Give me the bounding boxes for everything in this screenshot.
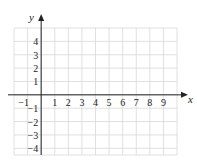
x-tick-label: 9	[161, 97, 166, 108]
x-tick-label: 5	[107, 97, 112, 108]
x-tick-label: 2	[66, 97, 71, 108]
x-tick-label: 8	[147, 97, 152, 108]
y-tick-label: −3	[28, 130, 39, 141]
x-tick-label: 4	[93, 97, 98, 108]
y-axis-arrow-icon	[38, 14, 44, 21]
y-tick-label: 4	[33, 36, 38, 47]
x-tick-label: 7	[134, 97, 139, 108]
y-tick-label: −2	[28, 117, 39, 128]
x-axis-label: x	[187, 93, 193, 105]
y-tick-label: −1	[28, 103, 39, 114]
y-tick-label: 1	[33, 76, 38, 87]
y-axis-label: y	[28, 11, 34, 23]
x-tick-label: 3	[79, 97, 84, 108]
y-tick-label: 3	[33, 50, 38, 61]
coordinate-plane: −11234567894321−1−2−3−4 x y	[0, 0, 197, 165]
coordinate-grid-chart: −11234567894321−1−2−3−4 x y	[0, 0, 197, 165]
y-tick-label: 2	[33, 63, 38, 74]
grid-lines	[14, 28, 177, 155]
x-axis-arrow-icon	[181, 92, 188, 98]
y-tick-label: −4	[28, 143, 39, 154]
x-tick-label: 6	[120, 97, 125, 108]
x-tick-label: 1	[52, 97, 57, 108]
